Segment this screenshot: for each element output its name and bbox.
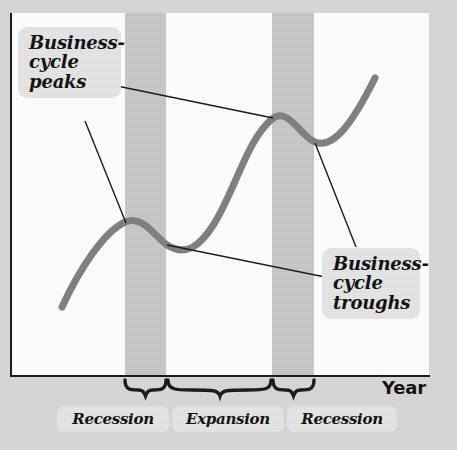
x-axis-label-year: Year [382, 377, 426, 398]
callout-troughs-line3: troughs [333, 293, 410, 312]
recession-band-2 [272, 13, 314, 375]
brace-recession-2 [273, 380, 314, 396]
brace-expansion [168, 380, 271, 396]
callout-troughs-line2: cycle [333, 273, 410, 292]
y-axis [10, 13, 12, 377]
x-axis [10, 375, 430, 377]
callout-peaks-line2: cycle [29, 52, 111, 71]
callout-peaks-line3: peaks [29, 72, 111, 91]
phase-label-expansion: Expansion [172, 406, 284, 432]
phase-label-recession-1: Recession [57, 406, 169, 432]
callout-business-cycle-troughs: Business- cycle troughs [322, 248, 420, 319]
callout-peaks-line1: Business- [29, 33, 111, 52]
brace-recession-1 [125, 380, 166, 396]
recession-band-1 [125, 13, 166, 375]
callout-business-cycle-peaks: Business- cycle peaks [18, 27, 121, 98]
callout-troughs-line1: Business- [333, 254, 410, 273]
business-cycle-figure: Business- cycle peaks Business- cycle tr… [0, 0, 457, 450]
phase-label-recession-2: Recession [287, 406, 397, 432]
